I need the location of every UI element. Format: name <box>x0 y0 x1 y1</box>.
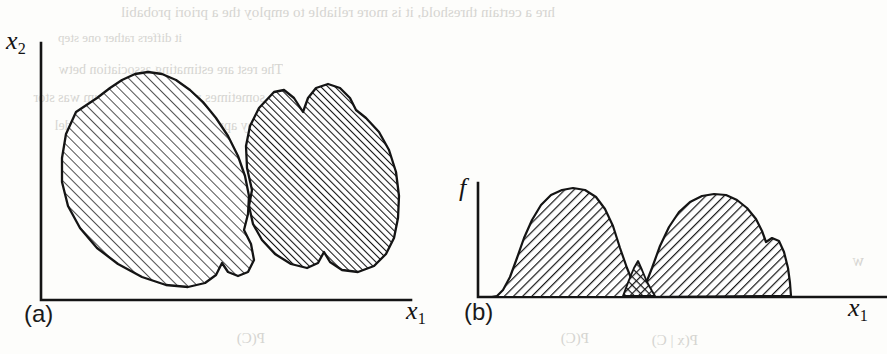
panel-b-caption: (b) <box>464 298 493 326</box>
panel-a-x-axis-label: x1 <box>406 296 426 328</box>
panel-b-x-axis-label: x1 <box>848 293 868 325</box>
panel-a-y-axis-label: x2 <box>6 26 26 58</box>
panel-b-y-axis-label: f <box>459 173 467 205</box>
class-2-region <box>246 84 399 272</box>
panel-a-y-axis-subscript: 2 <box>18 40 26 57</box>
panel-a-y-axis-symbol: x <box>6 26 18 55</box>
panel-b-x-axis-symbol: x <box>848 293 860 322</box>
scanned-figure: hre a certain threshold, it is more reli… <box>0 0 887 354</box>
panel-b-x-axis-subscript: 1 <box>860 307 868 324</box>
panel-a <box>41 43 411 300</box>
panel-a-caption: (a) <box>24 300 53 328</box>
density-class-2 <box>638 194 791 297</box>
class-1-region <box>62 72 254 287</box>
density-class-1 <box>492 188 641 297</box>
panel-a-x-axis-symbol: x <box>406 296 418 325</box>
panel-b <box>478 183 887 297</box>
figure-artwork <box>0 0 887 354</box>
panel-a-x-axis-subscript: 1 <box>418 310 426 327</box>
